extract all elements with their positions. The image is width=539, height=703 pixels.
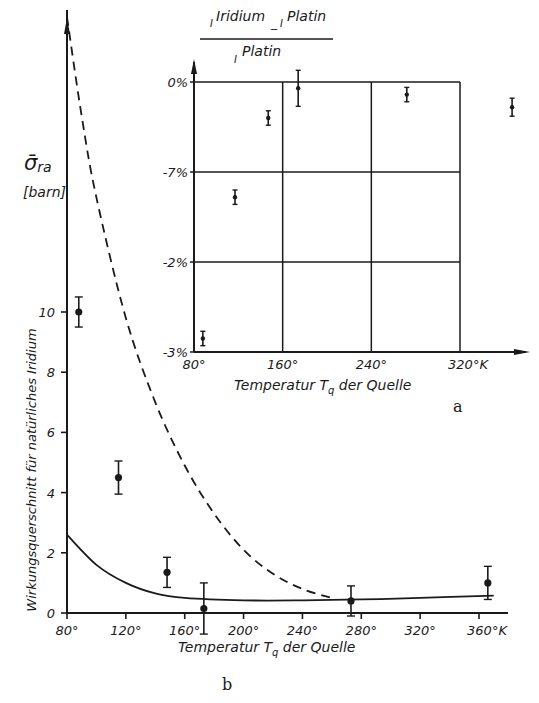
- data-point: [201, 336, 205, 340]
- data-point: [484, 579, 491, 586]
- data-point: [115, 474, 122, 481]
- data-point: [266, 116, 270, 120]
- x-tick-label: 320°: [404, 623, 435, 638]
- main-xlabel: Temperatur Tq der Quelle: [178, 639, 355, 658]
- inset-background: [194, 82, 460, 352]
- svg-text:Platin: Platin: [242, 43, 281, 59]
- x-tick-label: 80°: [55, 623, 78, 638]
- x-tick-label: 80°: [182, 357, 205, 372]
- y-tick-label: 4: [47, 486, 55, 501]
- x-tick-label: 320°K: [448, 357, 489, 372]
- svg-text:I: I: [280, 18, 283, 29]
- y-tick-label: 6: [47, 425, 55, 440]
- y-tick-label: 2: [47, 546, 55, 561]
- panel-label-b: b: [222, 675, 232, 694]
- inset-chart-a: 0%-7%-2%-3%80°160°240°320°K: [163, 59, 530, 372]
- inset-xlabel: Temperatur Tq der Quelle: [234, 377, 411, 396]
- main-ylabel-unit: [barn]: [23, 184, 66, 200]
- x-tick-label: 360°K: [467, 623, 508, 638]
- y-tick-label: -7%: [163, 165, 188, 180]
- data-point: [200, 605, 207, 612]
- panel-label-a: a: [453, 397, 463, 416]
- y-tick-label: -2%: [163, 255, 188, 270]
- x-tick-label: 120°: [110, 623, 141, 638]
- y-axis-arrow-icon: [191, 59, 197, 74]
- data-point: [233, 195, 237, 199]
- figure: 024681080°120°160°200°240°280°320°360°K …: [0, 0, 539, 703]
- data-point: [347, 597, 354, 604]
- x-tick-label: 200°: [228, 623, 259, 638]
- solid-curve: [67, 535, 494, 601]
- x-axis-arrow-icon: [514, 349, 530, 355]
- data-point: [75, 308, 82, 315]
- main-ylabel-symbol: σ̄ra: [24, 151, 52, 175]
- y-tick-label: 0%: [167, 75, 188, 90]
- x-tick-label: 280°: [346, 623, 377, 638]
- x-tick-label: 160°: [169, 623, 200, 638]
- svg-text:Iridium: Iridium: [216, 8, 265, 24]
- inset-ylabel-fraction: I Iridium _ I Platin I Platin: [200, 8, 333, 65]
- data-point: [296, 86, 300, 90]
- y-tick-label: 0: [47, 606, 55, 621]
- svg-text:I: I: [234, 54, 237, 65]
- x-tick-label: 240°: [356, 357, 387, 372]
- main-ylabel-long: Wirkungsquerschnitt für natürliches Irid…: [24, 328, 39, 611]
- x-tick-label: 240°: [287, 623, 318, 638]
- y-tick-label: 8: [47, 365, 55, 380]
- data-point: [510, 105, 514, 109]
- y-tick-label: 10: [38, 305, 55, 320]
- svg-text:_: _: [270, 16, 278, 30]
- data-point: [405, 92, 409, 96]
- svg-text:I: I: [210, 18, 213, 29]
- x-tick-label: 160°: [267, 357, 298, 372]
- svg-text:Platin: Platin: [287, 8, 326, 24]
- data-point: [163, 569, 170, 576]
